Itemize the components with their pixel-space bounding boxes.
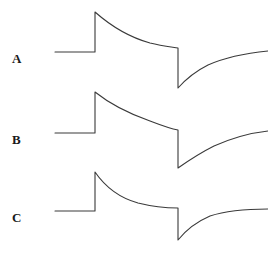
trace-line-a bbox=[55, 12, 268, 88]
trace-line-b bbox=[55, 92, 268, 168]
panel-label-b: B bbox=[12, 133, 21, 146]
panel-label-c: C bbox=[12, 211, 22, 224]
trace-figure: A B C bbox=[0, 0, 268, 257]
trace-plot-area bbox=[0, 0, 268, 257]
panel-label-a: A bbox=[12, 52, 22, 65]
trace-line-c bbox=[55, 172, 268, 240]
